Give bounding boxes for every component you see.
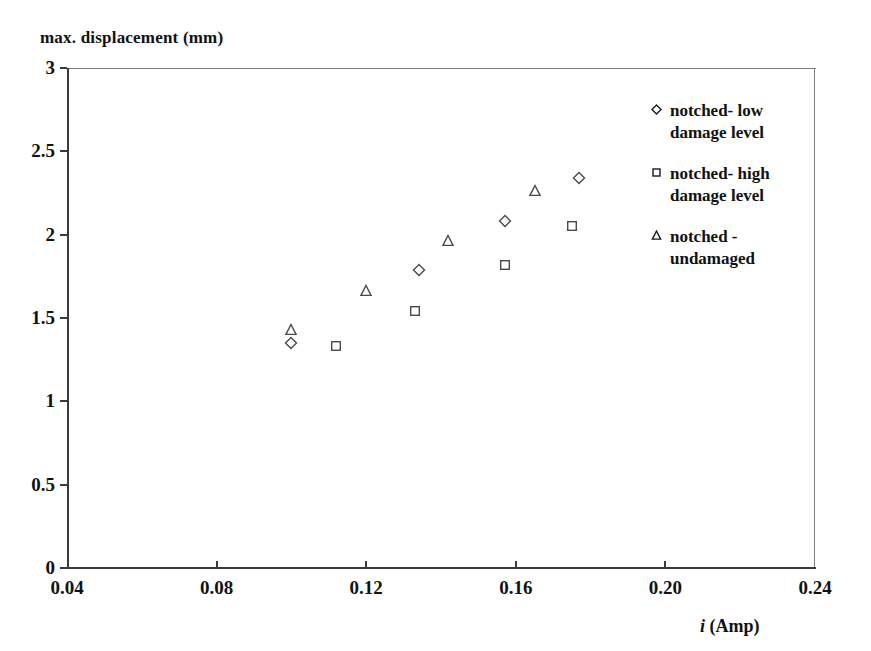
legend-marker-square-icon <box>648 167 664 178</box>
legend-label: notched - undamaged <box>670 226 755 271</box>
x-tick-label: 0.16 <box>499 577 532 599</box>
legend-marker-diamond-icon <box>648 104 664 115</box>
y-tick-mark <box>60 234 67 236</box>
y-tick-label: 0.5 <box>31 474 55 496</box>
data-point-triangle <box>285 323 298 336</box>
data-point-triangle <box>360 285 373 298</box>
legend-label: notched- low damage level <box>670 100 764 145</box>
data-point-diamond <box>412 263 425 276</box>
y-tick-label: 2.5 <box>31 140 55 162</box>
legend-entry: notched- high damage level <box>648 163 863 208</box>
y-tick-label: 3 <box>46 57 56 79</box>
x-tick-label: 0.12 <box>350 577 383 599</box>
y-tick-label: 1 <box>46 390 56 412</box>
data-point-square <box>330 340 343 353</box>
chart-legend: notched- low damage levelnotched- high d… <box>648 100 863 289</box>
data-point-triangle <box>528 185 541 198</box>
y-tick-mark <box>60 150 67 152</box>
y-axis-title: max. displacement (mm) <box>40 28 223 48</box>
x-tick-mark <box>664 561 666 568</box>
y-tick-mark <box>60 567 67 569</box>
x-tick-label: 0.20 <box>649 577 682 599</box>
data-point-square <box>498 258 511 271</box>
y-tick-mark <box>60 67 67 69</box>
data-point-triangle <box>442 235 455 248</box>
legend-entry: notched- low damage level <box>648 100 863 145</box>
x-axis-title: i (Amp) <box>700 616 760 637</box>
x-tick-mark <box>365 561 367 568</box>
y-tick-label: 0 <box>46 557 56 579</box>
x-tick-label: 0.08 <box>200 577 233 599</box>
y-tick-label: 2 <box>46 224 56 246</box>
x-tick-mark <box>216 561 218 568</box>
data-point-square <box>408 305 421 318</box>
x-tick-mark <box>515 561 517 568</box>
y-tick-mark <box>60 400 67 402</box>
legend-entry: notched - undamaged <box>648 226 863 271</box>
x-axis-unit: (Amp) <box>705 616 760 636</box>
axis-spine-left <box>67 68 69 569</box>
data-point-diamond <box>498 215 511 228</box>
axis-spine-bottom <box>67 567 816 569</box>
y-tick-label: 1.5 <box>31 307 55 329</box>
axis-spine-top <box>67 68 816 69</box>
data-point-square <box>565 220 578 233</box>
x-tick-label: 0.04 <box>50 577 83 599</box>
legend-label: notched- high damage level <box>670 163 770 208</box>
y-tick-mark <box>60 484 67 486</box>
data-point-diamond <box>285 337 298 350</box>
scatter-chart: max. displacement (mm) 00.511.522.53 0.0… <box>0 0 871 651</box>
data-point-diamond <box>573 172 586 185</box>
legend-marker-triangle-icon <box>648 230 664 241</box>
y-tick-mark <box>60 317 67 319</box>
x-tick-label: 0.24 <box>798 577 831 599</box>
